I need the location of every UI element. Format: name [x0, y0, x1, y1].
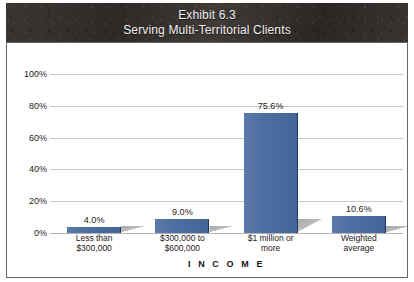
exhibit-number: Exhibit 6.3: [178, 8, 236, 23]
plot-area: 0%20%40%60%80%100% 4.0%9.0%75.6%10.6% Le…: [7, 43, 407, 277]
x-axis-tick-label-line: average: [307, 243, 411, 253]
y-axis-tick-label: 60%: [11, 133, 47, 142]
x-axis-tick-label: Weightedaverage: [307, 233, 411, 253]
bar-shadow: [298, 219, 324, 233]
x-axis-tick-label-line: Weighted: [307, 233, 411, 243]
bar[interactable]: [332, 216, 386, 233]
bar-value-label: 10.6%: [346, 204, 372, 214]
bar-shadow: [209, 226, 235, 233]
y-axis-tick-label: 20%: [11, 197, 47, 206]
bar-shadow: [121, 226, 147, 233]
y-axis-tick-label: 40%: [11, 165, 47, 174]
y-axis-tick-label: 100%: [11, 70, 47, 79]
bar-shadow: [386, 226, 412, 233]
bar[interactable]: [155, 219, 209, 233]
y-axis-tick-label: 80%: [11, 101, 47, 110]
x-axis-title: I N C O M E: [50, 259, 403, 269]
exhibit-title: Serving Multi-Territorial Clients: [123, 23, 291, 38]
bar-value-label: 9.0%: [172, 207, 193, 217]
chart-area: 0%20%40%60%80%100% 4.0%9.0%75.6%10.6% Le…: [6, 43, 408, 278]
bar-value-label: 75.6%: [258, 101, 284, 111]
bar[interactable]: [244, 113, 298, 233]
bar-value-label: 4.0%: [84, 215, 105, 225]
exhibit-banner: Exhibit 6.3 Serving Multi-Territorial Cl…: [6, 3, 408, 42]
exhibit-card: Exhibit 6.3 Serving Multi-Territorial Cl…: [5, 2, 408, 279]
